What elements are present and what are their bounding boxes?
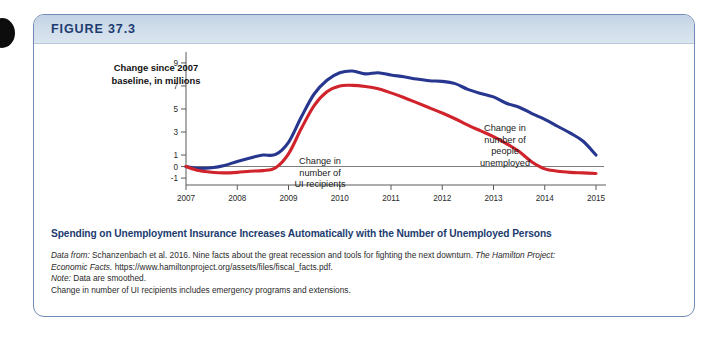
x-tick-label: 2011	[382, 194, 400, 203]
x-tick-label: 2015	[587, 194, 606, 203]
figure-container: FIGURE 37.3 975310-120072008200920102011…	[33, 14, 695, 317]
source-url: https://www.hamiltonproject.org/assets/f…	[112, 262, 332, 272]
source-title: The Hamilton Project:	[475, 250, 555, 260]
y-tick-label: 0	[173, 163, 178, 172]
x-tick-label: 2010	[331, 194, 350, 203]
data-from-label: Data from:	[51, 250, 90, 260]
y-tick-label: 1	[173, 151, 178, 160]
source-title-2: Economic Facts.	[51, 262, 112, 272]
figure-caption: Spending on Unemployment Insurance Incre…	[51, 228, 677, 239]
y-tick-label: -1	[171, 174, 179, 183]
annotation-unemp-line4: unemployed	[461, 158, 549, 170]
y-tick-label: 5	[173, 105, 178, 114]
page-margin-dot	[0, 18, 15, 48]
note-source-line1: Data from: Schanzenbach et al. 2016. Nin…	[51, 250, 681, 262]
data-from-text: Schanzenbach et al. 2016. Nine facts abo…	[90, 250, 476, 260]
annotation-people-unemployed: Change in number of people unemployed	[461, 123, 549, 169]
figure-body: 975310-120072008200920102011201220132014…	[34, 44, 694, 316]
y-axis-title: Change since 2007 baseline, in millions	[96, 62, 216, 87]
x-tick-label: 2009	[279, 194, 298, 203]
note-line2: Change in number of UI recipients includ…	[51, 285, 681, 297]
annotation-ui-recipients: Change in number of UI recipients	[277, 156, 363, 191]
note-line1: Note: Data are smoothed.	[51, 273, 681, 285]
annotation-unemp-line2: number of	[461, 135, 549, 147]
annotation-unemp-line1: Change in	[461, 123, 549, 135]
annotation-unemp-line3: people	[461, 146, 549, 158]
note-source-line2: Economic Facts. https://www.hamiltonproj…	[51, 262, 681, 274]
annotation-ui-line3: UI recipients	[277, 179, 363, 191]
figure-header: FIGURE 37.3	[34, 15, 694, 44]
x-tick-label: 2014	[536, 194, 555, 203]
x-tick-label: 2013	[484, 194, 503, 203]
x-tick-label: 2012	[433, 194, 452, 203]
figure-number-label: FIGURE 37.3	[51, 22, 136, 36]
annotation-ui-line1: Change in	[277, 156, 363, 168]
y-tick-label: 3	[173, 128, 178, 137]
x-tick-label: 2008	[228, 194, 247, 203]
annotation-ui-line2: number of	[277, 168, 363, 180]
x-tick-label: 2007	[177, 194, 196, 203]
note-text: Data are smoothed.	[71, 273, 146, 283]
note-label: Note:	[51, 273, 71, 283]
figure-notes: Data from: Schanzenbach et al. 2016. Nin…	[51, 250, 681, 296]
y-axis-title-line1: Change since 2007 baseline, in millions	[111, 62, 200, 86]
